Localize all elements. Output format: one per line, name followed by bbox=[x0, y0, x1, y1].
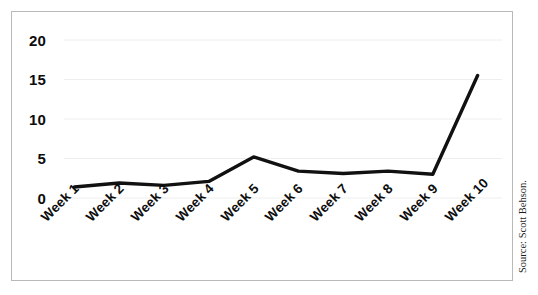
source-credit-text: Source: Scott Behson. bbox=[517, 180, 528, 273]
chart-figure: 05101520 Week 1Week 2Week 3Week 4Week 5W… bbox=[0, 0, 538, 295]
y-axis-tick-15: 15 bbox=[6, 72, 46, 87]
y-axis-tick-20: 20 bbox=[6, 33, 46, 48]
source-credit: Source: Scott Behson. bbox=[514, 180, 530, 290]
y-axis-tick-5: 5 bbox=[6, 151, 46, 166]
y-axis-tick-10: 10 bbox=[6, 112, 46, 127]
y-axis-tick-0: 0 bbox=[6, 191, 46, 206]
line-chart-canvas bbox=[0, 0, 538, 295]
gridlines-group bbox=[64, 40, 502, 198]
data-series-line bbox=[74, 76, 477, 187]
